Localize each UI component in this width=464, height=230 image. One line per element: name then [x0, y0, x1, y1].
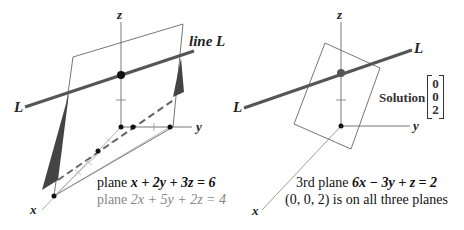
left-line-L-label: L: [14, 100, 23, 115]
right-z-axis-label: z: [337, 8, 342, 21]
plane3-outline: [294, 43, 380, 149]
plane1-outline: [54, 24, 183, 196]
plane2-prefix: plane: [97, 192, 131, 207]
line-L-label: line L: [189, 34, 225, 49]
left-point-y3: [168, 125, 173, 130]
right-x-axis-label: x: [252, 204, 259, 217]
right-shaded-triangle: [173, 58, 184, 97]
left-y-axis-label: y: [196, 120, 202, 133]
left-point-y1: [131, 125, 136, 130]
solution-note: (0, 0, 2) is on all three planes: [285, 193, 448, 207]
left-line-L: [25, 51, 194, 107]
plane3-label: 3rd plane 6x − 3y + z = 2: [296, 176, 437, 190]
left-shaded-triangle: [42, 93, 69, 190]
plane2-edge-2: [54, 154, 98, 196]
solution-vector: 0 0 2: [427, 75, 444, 119]
plane1-equation: x + 2y + 3z = 6: [131, 175, 216, 190]
plane3-equation: 6x − 3y + z = 2: [352, 175, 437, 190]
left-point-mid: [96, 149, 101, 154]
left-point-on-L: [117, 71, 125, 79]
right-line-L-right-label: L: [414, 41, 423, 56]
solution-z: 2: [428, 103, 443, 116]
left-z-axis-label: z: [117, 8, 122, 21]
plane2-equation: 2x + 5y + 2z = 4: [131, 192, 226, 207]
right-line-L-left-label: L: [233, 100, 242, 115]
plane1-prefix: plane: [97, 175, 131, 190]
left-origin-point: [119, 125, 124, 130]
plane1-label: plane x + 2y + 3z = 6: [97, 176, 215, 190]
solution-label: Solution: [379, 91, 425, 104]
right-solution-point: [337, 69, 345, 77]
plane2-label: plane 2x + 5y + 2z = 4: [97, 193, 226, 207]
dashed-intersection-line: [58, 99, 175, 180]
plane3-prefix: 3rd plane: [296, 175, 352, 190]
left-x-axis-label: x: [30, 203, 37, 216]
left-point-x: [52, 194, 57, 199]
right-y-axis-label: y: [413, 119, 419, 132]
right-origin-point: [339, 124, 344, 129]
